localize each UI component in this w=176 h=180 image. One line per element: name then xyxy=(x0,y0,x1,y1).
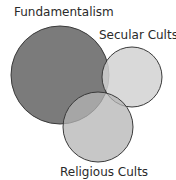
venn-diagram: Fundamentalism Secular Cults Religious C… xyxy=(0,0,176,180)
circle-religious-cults xyxy=(63,92,133,162)
label-religious-cults: Religious Cults xyxy=(60,165,148,179)
label-fundamentalism: Fundamentalism xyxy=(14,5,114,19)
label-secular-cults: Secular Cults xyxy=(99,28,176,42)
